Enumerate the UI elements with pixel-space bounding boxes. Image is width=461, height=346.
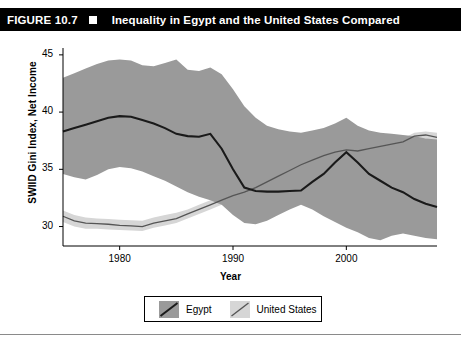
x-tick-1980: 1980 [109, 253, 131, 264]
y-tick-35: 35 [42, 162, 53, 173]
legend-item-egypt[interactable]: Egypt [159, 301, 212, 318]
figure-title-bar: FIGURE 10.7 Inequality in Egypt and the … [0, 8, 461, 31]
x-tick-2000: 2000 [335, 253, 357, 264]
legend-label-united-states: United States [257, 304, 317, 315]
y-axis-title: SWIID Gini Index, Net Income [27, 38, 38, 228]
y-tick-40: 40 [42, 105, 53, 116]
y-tick-30: 30 [42, 220, 53, 231]
egypt-uncertainty-band [63, 59, 437, 240]
legend-label-egypt: Egypt [186, 304, 212, 315]
egypt-legend-key-icon [159, 301, 179, 318]
figure-title: Inequality in Egypt and the United State… [112, 14, 400, 26]
chart-legend: Egypt United States [144, 296, 322, 322]
legend-item-united-states[interactable]: United States [230, 301, 317, 318]
y-tick-45: 45 [42, 48, 53, 59]
chart-svg [0, 31, 461, 271]
figure-number: FIGURE 10.7 [7, 14, 78, 26]
figure-container: FIGURE 10.7 Inequality in Egypt and the … [0, 0, 461, 346]
united-states-legend-key-icon [230, 301, 250, 318]
figure-bottom-rule [0, 334, 461, 335]
square-marker-icon [89, 16, 97, 24]
chart-plot-area: SWIID Gini Index, Net Income 30354045198… [0, 31, 461, 271]
x-tick-1990: 1990 [222, 253, 244, 264]
x-axis-title: Year [0, 271, 461, 282]
